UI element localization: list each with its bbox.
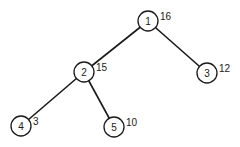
node-id-label: 3	[204, 68, 210, 79]
node-value-label: 15	[96, 62, 108, 73]
node-id-label: 4	[18, 121, 24, 132]
node-value-label: 12	[219, 63, 231, 74]
node-value-label: 10	[126, 117, 138, 128]
node-id-label: 5	[111, 122, 117, 133]
node-id-label: 2	[81, 67, 87, 78]
edge-1-3	[148, 21, 207, 73]
node-value-label: 3	[33, 116, 39, 127]
node-id-label: 1	[145, 16, 151, 27]
tree-node-4: 43	[11, 116, 39, 136]
edge-2-4	[21, 72, 84, 126]
tree-node-2: 215	[74, 62, 108, 82]
tree-node-1: 116	[138, 11, 172, 31]
tree-diagram: 11621531243510	[0, 0, 240, 147]
edge-1-2	[84, 21, 148, 72]
tree-node-5: 510	[104, 117, 138, 137]
node-value-label: 16	[160, 11, 172, 22]
tree-node-3: 312	[197, 63, 231, 83]
